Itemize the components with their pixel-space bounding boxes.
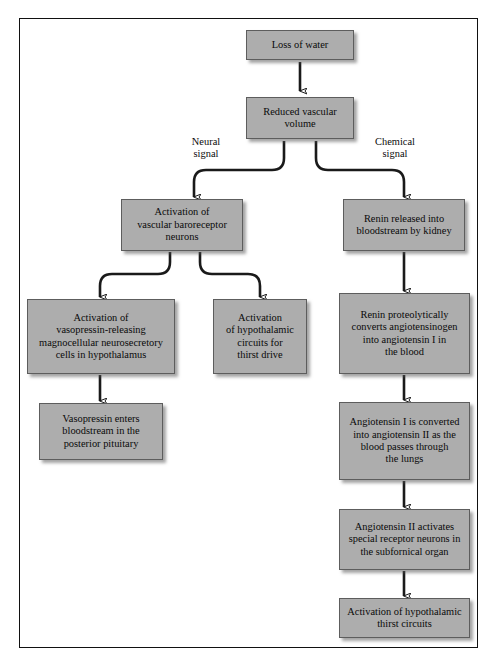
node-angiotensin-ii-activates-label: Angiotensin II activates special recepto… (343, 521, 466, 558)
node-vasopressin-enters[interactable]: Vasopressin enters bloodstream in the po… (39, 403, 163, 460)
node-loss-of-water-label: Loss of water (250, 39, 350, 51)
node-vasopressin-cells-label: Activation of vasopressin-releasing magn… (31, 312, 171, 362)
node-reduced-vascular-volume[interactable]: Reduced vascular volume (246, 97, 354, 139)
node-baroreceptor-neurons-label: Activation of vascular baroreceptor neur… (125, 206, 239, 243)
arrow-baroreceptor-to-vasopressin-cells (100, 252, 170, 297)
node-renin-converts[interactable]: Renin proteolytically converts angiotens… (339, 293, 470, 374)
node-thirst-circuits-left[interactable]: Activation of hypothalamic circuits for … (213, 299, 307, 374)
arrow-baroreceptor-to-thirst-left (200, 252, 260, 297)
node-angiotensin-i-converted[interactable]: Angiotensin I is converted into angioten… (339, 402, 470, 480)
node-vasopressin-enters-label: Vasopressin enters bloodstream in the po… (43, 413, 159, 450)
node-thirst-circuits-right[interactable]: Activation of hypothalamic thirst circui… (339, 598, 470, 638)
node-thirst-circuits-left-label: Activation of hypothalamic circuits for … (217, 312, 303, 362)
node-renin-released-label: Renin released into bloodstream by kidne… (347, 213, 461, 238)
edge-label-chemical-signal: Chemical signal (358, 136, 432, 161)
node-vasopressin-cells[interactable]: Activation of vasopressin-releasing magn… (27, 299, 175, 374)
flowchart-canvas: Loss of water Reduced vascular volume Ac… (0, 0, 498, 665)
node-baroreceptor-neurons[interactable]: Activation of vascular baroreceptor neur… (121, 199, 243, 251)
node-renin-released[interactable]: Renin released into bloodstream by kidne… (343, 199, 465, 251)
node-renin-converts-label: Renin proteolytically converts angiotens… (343, 309, 466, 359)
node-angiotensin-ii-activates[interactable]: Angiotensin II activates special recepto… (339, 509, 470, 570)
node-thirst-circuits-right-label: Activation of hypothalamic thirst circui… (343, 606, 466, 631)
node-reduced-vascular-volume-label: Reduced vascular volume (250, 106, 350, 131)
edge-label-neural-signal: Neural signal (174, 136, 238, 161)
node-loss-of-water[interactable]: Loss of water (246, 30, 354, 60)
node-angiotensin-i-converted-label: Angiotensin I is converted into angioten… (343, 416, 466, 466)
